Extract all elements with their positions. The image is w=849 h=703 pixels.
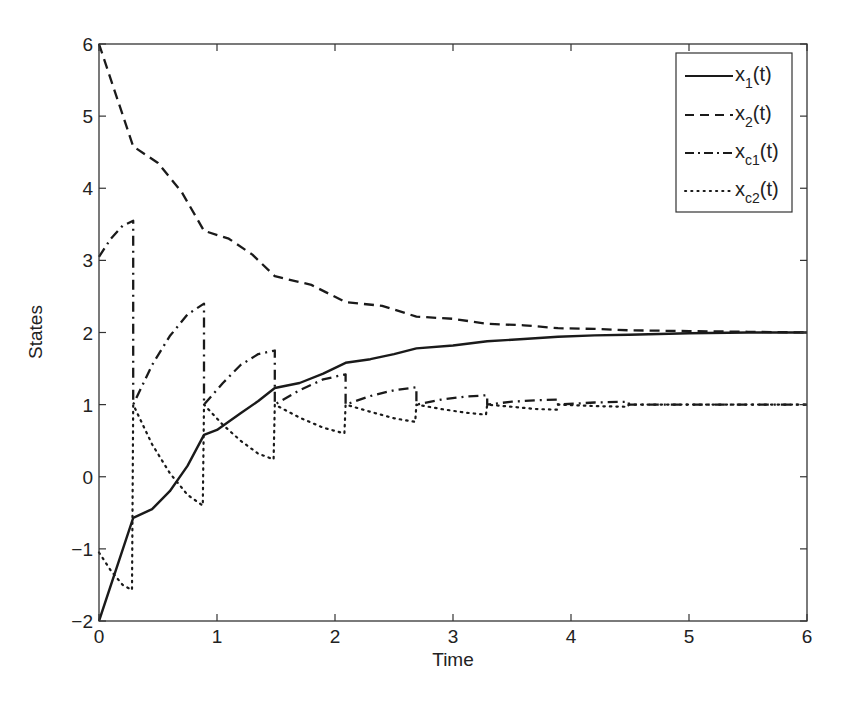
y-tick-label: 6 [82,34,93,55]
x-tick-label: 4 [566,626,577,647]
legend: x1(t)x2(t)xc1(t)xc2(t) [676,53,792,212]
y-tick-label: 5 [82,106,93,127]
x-axis-label: Time [432,649,474,670]
x-tick-label: 5 [684,626,695,647]
y-tick-label: −1 [71,539,93,560]
x-tick-label: 3 [448,626,459,647]
y-tick-labels: −2−10123456 [71,34,93,632]
y-axis-label: States [25,305,46,359]
y-tick-label: 4 [82,178,93,199]
y-tick-label: 1 [82,395,93,416]
x-tick-labels: 0123456 [94,626,813,647]
line-chart: 0123456 −2−10123456 Time States x1(t)x2(… [0,0,849,703]
series-line-c1 [99,221,807,405]
series-line-1 [99,333,807,622]
chart-figure: 0123456 −2−10123456 Time States x1(t)x2(… [0,0,849,703]
y-tick-label: −2 [71,611,93,632]
y-tick-label: 0 [82,467,93,488]
x-tick-label: 2 [330,626,341,647]
series-line-c2 [99,405,807,590]
y-tick-label: 3 [82,250,93,271]
x-tick-label: 0 [94,626,105,647]
x-tick-label: 1 [212,626,223,647]
x-tick-label: 6 [802,626,813,647]
y-tick-label: 2 [82,323,93,344]
